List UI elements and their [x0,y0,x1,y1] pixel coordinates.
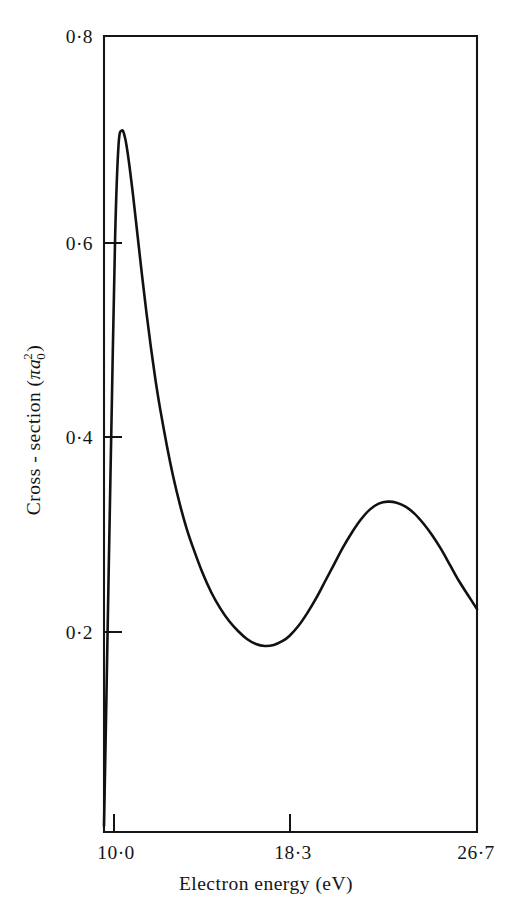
y-axis-title-close: ) [23,345,45,352]
plot-frame [104,36,477,832]
y-tick-label-0-8: 0·8 [66,26,93,47]
chart-figure: 0·8 0·6 0·4 0·2 10·0 18·3 26·7 Electron … [0,0,526,915]
y-tick-labels: 0·8 0·6 0·4 0·2 [66,26,93,643]
y-axis-title-sup: 2 [20,353,35,360]
x-tick-label-10-0: 10·0 [97,842,134,863]
cross-section-curve [104,130,477,826]
x-axis-title: Electron energy (eV) [179,873,353,895]
y-axis-title-main: Cross - section ( [23,379,45,515]
y-tick-label-0-4: 0·4 [66,427,93,448]
x-tick-labels: 10·0 18·3 26·7 [97,842,494,863]
y-tick-label-0-6: 0·6 [66,233,93,254]
x-tick-label-18-3: 18·3 [274,842,311,863]
axis-box [104,36,477,832]
y-axis-title: Cross - section (πa02) [20,345,48,515]
x-tick-label-26-7: 26·7 [457,842,494,863]
cross-section-line-chart: 0·8 0·6 0·4 0·2 10·0 18·3 26·7 Electron … [0,0,526,915]
y-tick-label-0-2: 0·2 [66,622,93,643]
svg-text:Cross - section (πa02): Cross - section (πa02) [20,345,48,515]
y-axis-title-sub: 0 [33,353,48,360]
x-axis-ticks [114,814,477,832]
